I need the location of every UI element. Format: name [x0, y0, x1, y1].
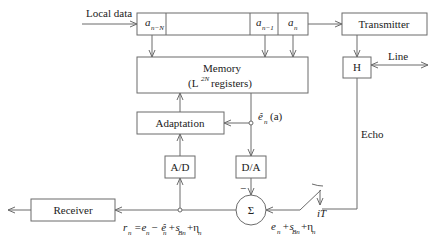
svg-text:D/A: D/A	[242, 161, 261, 173]
svg-text:Adaptation: Adaptation	[156, 117, 205, 129]
svg-text:e: e	[271, 220, 276, 232]
svg-text:Transmitter: Transmitter	[359, 18, 410, 30]
svg-text:n: n	[294, 24, 298, 32]
echo-canceller-diagram: Local data a n−N a n−1 a n Memory	[0, 0, 436, 241]
echo-label: Echo	[361, 128, 384, 140]
svg-text:n: n	[277, 228, 281, 236]
line-connection: Line	[371, 50, 428, 68]
minus-sign: −	[240, 182, 246, 194]
sampler-switch: iT	[300, 184, 327, 219]
svg-text:Bn: Bn	[292, 228, 300, 236]
svg-text:(L: (L	[188, 77, 199, 90]
svg-text:A/D: A/D	[171, 161, 190, 173]
received-signal-formula: r n =e n − ê n +s Bn +η n	[123, 221, 202, 237]
da-converter-block: D/A	[236, 156, 266, 178]
echo-estimate-label: ê n (a)	[258, 110, 283, 126]
svg-text:n: n	[312, 228, 316, 236]
line-signal-formula: e n +s Bn +η n	[271, 220, 316, 236]
svg-text:n−N: n−N	[151, 24, 164, 32]
svg-text:registers): registers)	[211, 77, 252, 90]
transmitter-block: Transmitter	[342, 13, 427, 35]
svg-text:(a): (a)	[270, 110, 283, 123]
svg-text:=e: =e	[134, 221, 146, 233]
svg-text:n: n	[146, 229, 150, 237]
local-data-input: Local data	[82, 7, 137, 27]
hybrid-block: H	[343, 57, 371, 78]
svg-text:n: n	[128, 229, 132, 237]
svg-text:n: n	[163, 229, 167, 237]
adaptation-block: Adaptation	[137, 112, 224, 134]
svg-text:n: n	[198, 229, 202, 237]
svg-text:Receiver: Receiver	[53, 204, 92, 216]
local-data-label: Local data	[86, 7, 132, 19]
sampler-label: iT	[317, 207, 327, 219]
ad-converter-block: A/D	[165, 156, 195, 178]
svg-text:ê: ê	[258, 110, 263, 122]
svg-text:2N: 2N	[201, 75, 210, 83]
receiver-block: Receiver	[31, 199, 115, 221]
svg-text:Σ: Σ	[248, 204, 254, 216]
shift-register: a n−N a n−1 a n	[137, 13, 308, 35]
line-label: Line	[388, 50, 408, 62]
memory-block: Memory (L 2N registers)	[137, 57, 308, 93]
svg-text:Memory: Memory	[203, 62, 241, 74]
svg-text:n: n	[264, 118, 268, 126]
svg-text:Bn: Bn	[178, 229, 186, 237]
summing-junction: Σ	[236, 195, 266, 225]
svg-text:H: H	[353, 61, 361, 73]
svg-text:n−1: n−1	[262, 24, 274, 32]
